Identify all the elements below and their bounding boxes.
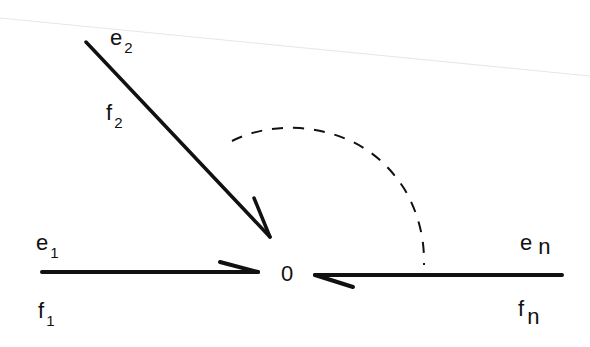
label-f1-base: f	[38, 298, 45, 323]
label-e1: e1	[36, 230, 59, 261]
junction-label: 0	[281, 261, 293, 286]
label-e2: e2	[110, 25, 133, 56]
label-e1-base: e	[36, 230, 48, 255]
label-f2: f2	[106, 100, 122, 131]
bond-n	[315, 275, 562, 287]
bond-2-half-arrow-icon	[254, 198, 270, 237]
bond-2-line	[86, 42, 270, 237]
label-f1: f1	[38, 298, 54, 329]
zero-junction-diagram: 0 e2 f2 e1 f1 en fn	[0, 0, 590, 347]
label-fn: fn	[518, 296, 539, 329]
label-en-base: e	[520, 230, 532, 255]
label-e2-sub: 2	[124, 39, 132, 56]
bond-1	[42, 262, 258, 272]
label-fn-base: f	[518, 296, 525, 321]
label-e2-base: e	[110, 25, 122, 50]
label-en: en	[520, 230, 551, 259]
bond-2	[86, 42, 270, 237]
label-f2-sub: 2	[114, 114, 122, 131]
dashed-arc	[232, 128, 424, 265]
label-e1-sub: 1	[50, 244, 58, 261]
label-f1-sub: 1	[46, 312, 54, 329]
label-en-sub: n	[538, 234, 550, 259]
label-f2-base: f	[106, 100, 113, 125]
label-fn-sub: n	[527, 304, 539, 329]
